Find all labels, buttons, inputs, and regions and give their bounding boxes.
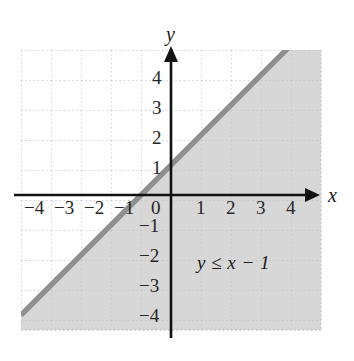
y-tick-label-1: 1 <box>152 158 162 177</box>
inequality-graph-figure: y x −4 −3 −2 −1 0 1 2 3 4 4 3 2 1 −1 −2 … <box>0 0 354 361</box>
y-tick-label--1: −1 <box>139 216 159 235</box>
x-tick-label--1: −1 <box>114 198 134 217</box>
y-tick-label-4: 4 <box>152 68 162 87</box>
x-axis-label: x <box>328 185 337 205</box>
inequality-annotation: y ≤ x − 1 <box>197 253 270 272</box>
y-tick-label--4: −4 <box>139 306 159 325</box>
x-tick-label-1: 1 <box>196 198 206 217</box>
y-tick-label--3: −3 <box>139 276 159 295</box>
x-tick-label--3: −3 <box>54 198 74 217</box>
coordinate-plane <box>0 0 354 361</box>
x-tick-label-2: 2 <box>226 198 236 217</box>
y-tick-label-3: 3 <box>152 98 162 117</box>
x-tick-label--4: −4 <box>24 198 44 217</box>
x-tick-label-4: 4 <box>286 198 296 217</box>
y-axis-label: y <box>166 24 175 44</box>
y-tick-label-2: 2 <box>152 128 162 147</box>
y-tick-label--2: −2 <box>139 246 159 265</box>
x-tick-label-3: 3 <box>256 198 266 217</box>
x-tick-label--2: −2 <box>84 198 104 217</box>
